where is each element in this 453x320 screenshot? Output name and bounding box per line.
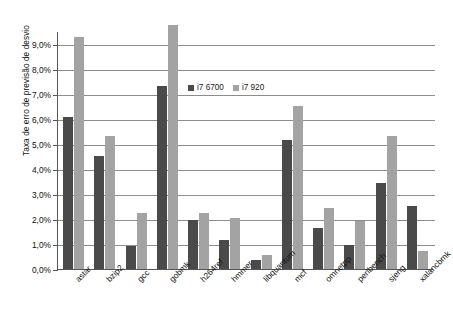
- x-axis-label-cell: h264ref: [182, 272, 213, 320]
- bar-bzip2-i7-6700: [94, 156, 104, 269]
- bar-astar-i7-6700: [63, 117, 73, 269]
- x-axis-label-cell: sjeng: [370, 272, 401, 320]
- x-axis-label-cell: xalancbmk: [402, 272, 433, 320]
- y-axis-tick-label: 6,0%: [32, 115, 51, 125]
- bar-gobmk-i7-920: [168, 25, 178, 269]
- y-axis-title: Taxa de erro de previsão de desvio: [22, 0, 31, 191]
- bar-mcf-i7-920: [293, 106, 303, 269]
- legend-label-series-0: i7 6700: [197, 83, 224, 92]
- y-axis-tick-label: 2,0%: [32, 215, 51, 225]
- bar-hmmer-i7-920: [230, 218, 240, 269]
- bar-astar-i7-920: [74, 37, 84, 269]
- y-axis-tick-label: 8,0%: [32, 65, 51, 75]
- bar-group: [308, 32, 339, 269]
- bar-xalancbmk-i7-6700: [407, 206, 417, 269]
- y-axis-tick-label: 1,0%: [32, 240, 51, 250]
- bar-group: [371, 32, 402, 269]
- bar-gcc-i7-6700: [126, 246, 136, 269]
- legend-swatch-icon: [233, 85, 239, 91]
- chart-legend: i7 6700 i7 920: [185, 82, 267, 93]
- bar-h264ref-i7-920: [199, 213, 209, 269]
- x-axis-labels: astarbzip2gccgobmkh264refhmmerlibquantum…: [57, 272, 433, 320]
- bar-group: [402, 32, 433, 269]
- plot-area: 0,0%1,0%2,0%3,0%4,0%5,0%6,0%7,0%8,0%9,0%: [57, 32, 433, 270]
- x-axis-label-cell: gobmk: [151, 272, 182, 320]
- bar-bzip2-i7-920: [105, 136, 115, 269]
- x-axis-label-cell: omnetpp: [308, 272, 339, 320]
- y-axis-tick-label: 0,0%: [32, 265, 51, 275]
- legend-swatch-icon: [188, 85, 194, 91]
- bar-group: [89, 32, 120, 269]
- bar-sjeng-i7-920: [387, 136, 397, 269]
- x-axis-label-cell: hmmer: [214, 272, 245, 320]
- bar-group: [277, 32, 308, 269]
- bar-group: [58, 32, 89, 269]
- legend-label-series-1: i7 920: [242, 83, 264, 92]
- bar-group: [121, 32, 152, 269]
- x-axis-label-cell: gcc: [120, 272, 151, 320]
- x-axis-label-cell: astar: [57, 272, 88, 320]
- bar-group: [183, 32, 214, 269]
- legend-item-series-1: i7 920: [233, 83, 264, 92]
- bar-groups: [58, 32, 433, 269]
- y-axis-tick-label: 3,0%: [32, 190, 51, 200]
- y-axis-tick-label: 9,0%: [32, 40, 51, 50]
- x-axis-label-cell: bzip2: [88, 272, 119, 320]
- y-axis-tick-label: 4,0%: [32, 165, 51, 175]
- x-axis-label-cell: perlbench: [339, 272, 370, 320]
- x-axis-label-cell: libquantum: [245, 272, 276, 320]
- bar-group: [339, 32, 370, 269]
- x-axis-label-cell: mcf: [276, 272, 307, 320]
- bar-gobmk-i7-6700: [157, 86, 167, 269]
- bar-gcc-i7-920: [137, 213, 147, 269]
- bar-perlbench-i7-920: [355, 221, 365, 269]
- y-axis-tick-label: 7,0%: [32, 90, 51, 100]
- bar-group: [152, 32, 183, 269]
- bar-omnetpp-i7-6700: [313, 228, 323, 269]
- bar-group: [214, 32, 245, 269]
- y-axis-tick-label: 5,0%: [32, 140, 51, 150]
- bar-omnetpp-i7-920: [324, 208, 334, 269]
- legend-item-series-0: i7 6700: [188, 83, 224, 92]
- bar-group: [246, 32, 277, 269]
- bar-h264ref-i7-6700: [188, 220, 198, 269]
- y-axis-tick: [53, 270, 58, 271]
